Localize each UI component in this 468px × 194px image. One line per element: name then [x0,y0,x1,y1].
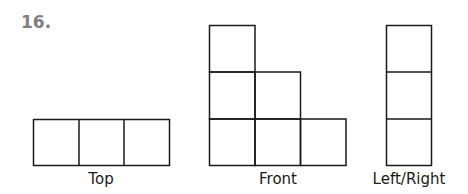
front-view [210,26,347,166]
top-view-label: Top [71,170,131,188]
left-right-view-label: Left/Right [364,170,454,188]
top-view [34,120,170,166]
left-right-view [387,26,432,166]
orthographic-views-diagram [0,0,468,194]
front-view-label: Front [247,170,309,188]
